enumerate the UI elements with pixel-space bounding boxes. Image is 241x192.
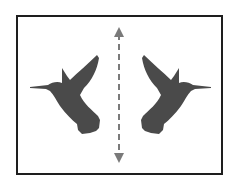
right-hummingbird-icon [141,55,211,134]
left-hummingbird-icon [30,55,100,134]
symmetry-axis-arrow-icon [114,27,124,163]
symmetry-diagram [0,0,241,192]
